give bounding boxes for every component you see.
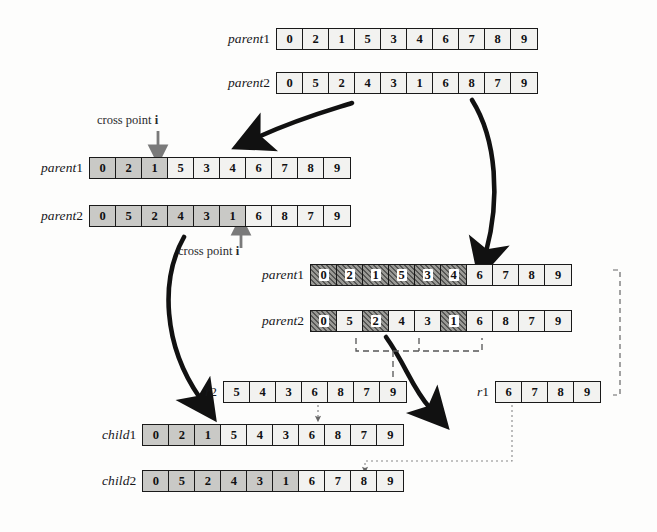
cross-point-label-bottom: cross point i <box>178 244 239 259</box>
array-cell: 9 <box>511 29 537 49</box>
array-cell: 9 <box>574 382 600 402</box>
row-left-parent2: parent2 0524316879 <box>41 205 351 227</box>
row-label: parent2 <box>262 313 310 329</box>
array-cell: 7 <box>519 311 545 331</box>
array-cell: 8 <box>493 311 519 331</box>
array-cell: 8 <box>272 206 298 226</box>
array-cell-value: 2 <box>345 269 355 281</box>
array-cell: 4 <box>355 73 381 93</box>
array-cell: 4 <box>168 206 194 226</box>
row-label: child1 <box>102 427 142 443</box>
array-cell: 4 <box>407 29 433 49</box>
array-cell: 0 <box>311 311 337 331</box>
row-mid-parent1: parent1 0215346789 <box>262 264 572 286</box>
array-cell: 2 <box>337 265 363 285</box>
array-cell: 0 <box>90 206 116 226</box>
cross-point-label-top: cross point i <box>97 113 158 128</box>
array-cell: 0 <box>90 158 116 178</box>
array-cell: 5 <box>168 158 194 178</box>
row-label: parent1 <box>228 31 276 47</box>
array-cell: 5 <box>355 29 381 49</box>
array-cell: 7 <box>522 382 548 402</box>
array-cell: 5 <box>224 382 250 402</box>
array-r2: 5436879 <box>223 381 407 403</box>
array-cell-value: 3 <box>423 269 433 281</box>
array-cell: 4 <box>247 425 273 445</box>
array-cell: 3 <box>381 29 407 49</box>
array-cell: 2 <box>169 425 195 445</box>
array-cell: 6 <box>433 29 459 49</box>
array-cell: 6 <box>302 382 328 402</box>
arrow-top-to-mid <box>472 100 494 252</box>
array-cell: 3 <box>247 471 273 491</box>
array-cell-value: 5 <box>397 269 407 281</box>
array-cell: 7 <box>354 382 380 402</box>
row-r2: r2 5436879 <box>205 381 407 403</box>
array-cell: 2 <box>363 311 389 331</box>
array-cell-value: 1 <box>449 315 459 327</box>
array-cell: 9 <box>377 425 403 445</box>
array-cell: 3 <box>276 382 302 402</box>
array-cell: 3 <box>273 425 299 445</box>
array-cell: 1 <box>273 471 299 491</box>
array-cell: 5 <box>169 471 195 491</box>
array-cell: 9 <box>324 158 350 178</box>
row-label: parent2 <box>228 75 276 91</box>
array-cell: 1 <box>195 425 221 445</box>
array-cell-value: 2 <box>371 315 381 327</box>
array-cell: 7 <box>298 206 324 226</box>
array-cell: 6 <box>299 471 325 491</box>
array-r1: 6789 <box>495 381 601 403</box>
array-cell: 0 <box>277 29 303 49</box>
array-cell: 1 <box>407 73 433 93</box>
array-child2: 0524316789 <box>142 470 404 492</box>
array-cell: 2 <box>142 206 168 226</box>
arrow-top-to-left <box>258 103 352 137</box>
array-cell: 2 <box>195 471 221 491</box>
array-cell: 6 <box>467 311 493 331</box>
array-cell: 6 <box>299 425 325 445</box>
array-cell: 5 <box>116 206 142 226</box>
array-cell: 2 <box>329 73 355 93</box>
row-label: child2 <box>102 473 142 489</box>
array-cell: 3 <box>194 158 220 178</box>
array-cell: 6 <box>246 206 272 226</box>
array-cell: 5 <box>303 73 329 93</box>
array-cell: 3 <box>415 265 441 285</box>
array-cell: 4 <box>389 311 415 331</box>
array-cell: 7 <box>351 425 377 445</box>
array-cell: 8 <box>351 471 377 491</box>
array-cell: 5 <box>337 311 363 331</box>
array-cell: 6 <box>433 73 459 93</box>
array-mid-parent1: 0215346789 <box>310 264 572 286</box>
array-cell: 3 <box>381 73 407 93</box>
array-child1: 0215436879 <box>142 424 404 446</box>
array-cell: 1 <box>441 311 467 331</box>
array-cell: 5 <box>221 425 247 445</box>
array-top-parent1: 0215346789 <box>276 28 538 50</box>
array-cell: 0 <box>143 425 169 445</box>
array-cell: 9 <box>380 382 406 402</box>
row-r1: r1 6789 <box>477 381 601 403</box>
array-cell: 6 <box>496 382 522 402</box>
array-cell: 7 <box>325 471 351 491</box>
array-cell: 1 <box>142 158 168 178</box>
row-label: parent1 <box>41 160 89 176</box>
array-cell: 8 <box>325 425 351 445</box>
array-cell: 2 <box>303 29 329 49</box>
array-cell: 9 <box>511 73 537 93</box>
array-cell-value: 0 <box>319 269 329 281</box>
array-cell: 4 <box>250 382 276 402</box>
row-label: r1 <box>477 384 495 400</box>
array-cell: 4 <box>220 158 246 178</box>
array-cell: 1 <box>363 265 389 285</box>
array-cell: 8 <box>548 382 574 402</box>
array-cell: 2 <box>116 158 142 178</box>
array-cell: 0 <box>143 471 169 491</box>
array-cell: 8 <box>519 265 545 285</box>
array-cell: 1 <box>329 29 355 49</box>
array-cell: 0 <box>311 265 337 285</box>
array-cell: 8 <box>328 382 354 402</box>
array-cell: 9 <box>545 265 571 285</box>
array-cell: 9 <box>377 471 403 491</box>
